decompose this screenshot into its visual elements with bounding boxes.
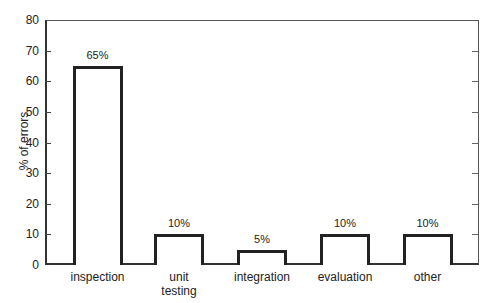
data-label: 65% — [68, 49, 128, 61]
x-category-label: other — [383, 270, 473, 284]
y-tick-mark-right — [472, 234, 478, 235]
y-tick-mark-right — [472, 51, 478, 52]
y-tick-label: 40 — [9, 137, 39, 149]
x-category-label: evaluation — [300, 270, 390, 284]
data-label: 10% — [149, 217, 209, 229]
y-tick-mark-right — [472, 112, 478, 113]
y-tick-label: 50 — [9, 106, 39, 118]
bar-evaluation — [320, 234, 370, 265]
bar-other — [403, 234, 453, 265]
y-tick-mark-right — [472, 173, 478, 174]
y-tick-label: 80 — [9, 14, 39, 26]
data-label: 10% — [398, 217, 458, 229]
y-tick-mark — [45, 51, 51, 52]
y-tick-mark — [45, 81, 51, 82]
bar-inspection — [73, 66, 123, 265]
y-tick-label: 10 — [9, 228, 39, 240]
y-tick-label: 0 — [9, 259, 39, 271]
y-tick-label: 30 — [9, 167, 39, 179]
x-category-label: unit testing — [134, 270, 224, 298]
y-tick-label: 20 — [9, 198, 39, 210]
y-tick-mark — [45, 234, 51, 235]
y-tick-mark-right — [472, 204, 478, 205]
y-tick-label: 60 — [9, 75, 39, 87]
y-tick-mark-right — [472, 143, 478, 144]
data-label: 10% — [315, 217, 375, 229]
y-tick-mark — [45, 143, 51, 144]
data-label: 5% — [232, 233, 292, 245]
bar-chart: % of errors 01020304050607080 65%inspect… — [0, 0, 495, 303]
bar-unit-testing — [154, 234, 204, 265]
bar-integration — [237, 250, 287, 265]
y-tick-mark — [45, 173, 51, 174]
x-category-label: inspection — [53, 270, 143, 284]
y-tick-mark-right — [472, 81, 478, 82]
y-tick-mark — [45, 204, 51, 205]
y-tick-mark — [45, 112, 51, 113]
x-category-label: integration — [217, 270, 307, 284]
y-tick-label: 70 — [9, 45, 39, 57]
